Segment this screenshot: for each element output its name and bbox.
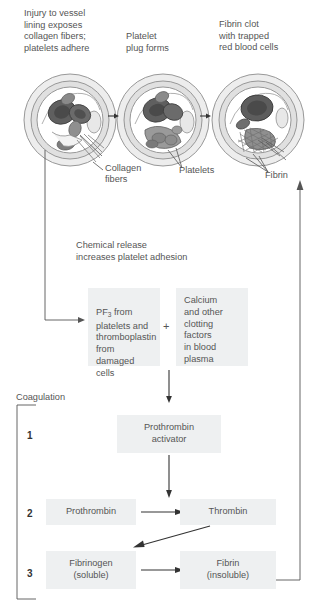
reactant-plus-operator: + bbox=[163, 320, 169, 332]
box-fibrinogen: Fibrinogen (soluble) bbox=[46, 551, 136, 589]
arrow-step1-to-step2 bbox=[163, 455, 175, 499]
label-fibrin: Fibrin bbox=[265, 170, 311, 181]
coagulation-bracket-label: Coagulation bbox=[16, 392, 65, 404]
reactant-pf3-text: PF3 from platelets and thromboplastin fr… bbox=[96, 307, 156, 378]
box-prothrombin-activator: Prothrombin activator bbox=[117, 415, 221, 453]
reactant-box-pf3: PF3 from platelets and thromboplastin fr… bbox=[88, 288, 160, 366]
chemical-release-text: Chemical release increases platelet adhe… bbox=[76, 240, 256, 263]
arrow-vessel1-to-vessel2 bbox=[108, 110, 120, 122]
box-fibrin-insoluble: Fibrin (insoluble) bbox=[180, 551, 276, 589]
stage-caption-fibrin-clot: Fibrin clot with trapped red blood cells bbox=[219, 19, 309, 54]
box-prothrombin: Prothrombin bbox=[46, 499, 136, 525]
arrow-vessel2-to-vessel3 bbox=[200, 110, 212, 122]
stage-caption-injury: Injury to vessel lining exposes collagen… bbox=[24, 8, 124, 54]
vessel-cross-section-fibrin-clot bbox=[210, 72, 306, 168]
label-platelets: Platelets bbox=[179, 165, 237, 176]
step-number-1: 1 bbox=[27, 430, 33, 441]
label-collagen-fibers: Collagen fibers bbox=[105, 163, 165, 186]
box-thrombin: Thrombin bbox=[180, 499, 276, 525]
vessel-cross-section-injury bbox=[22, 72, 118, 168]
step-number-3: 3 bbox=[27, 568, 33, 579]
step-number-2: 2 bbox=[27, 508, 33, 519]
arrow-thrombin-catalyst bbox=[128, 524, 228, 552]
arrow-fibrinogen-to-fibrin bbox=[141, 564, 185, 576]
reactant-box-calcium: Calcium and other clotting factors in bl… bbox=[176, 288, 248, 366]
stage-caption-platelet-plug: Platelet plug forms bbox=[126, 31, 206, 54]
pf3-subscript: 3 bbox=[108, 311, 112, 318]
arrow-prothrombin-to-thrombin bbox=[141, 506, 185, 518]
arrow-reactants-to-cascade bbox=[163, 370, 175, 404]
vessel-cross-section-platelet-plug bbox=[115, 72, 211, 168]
